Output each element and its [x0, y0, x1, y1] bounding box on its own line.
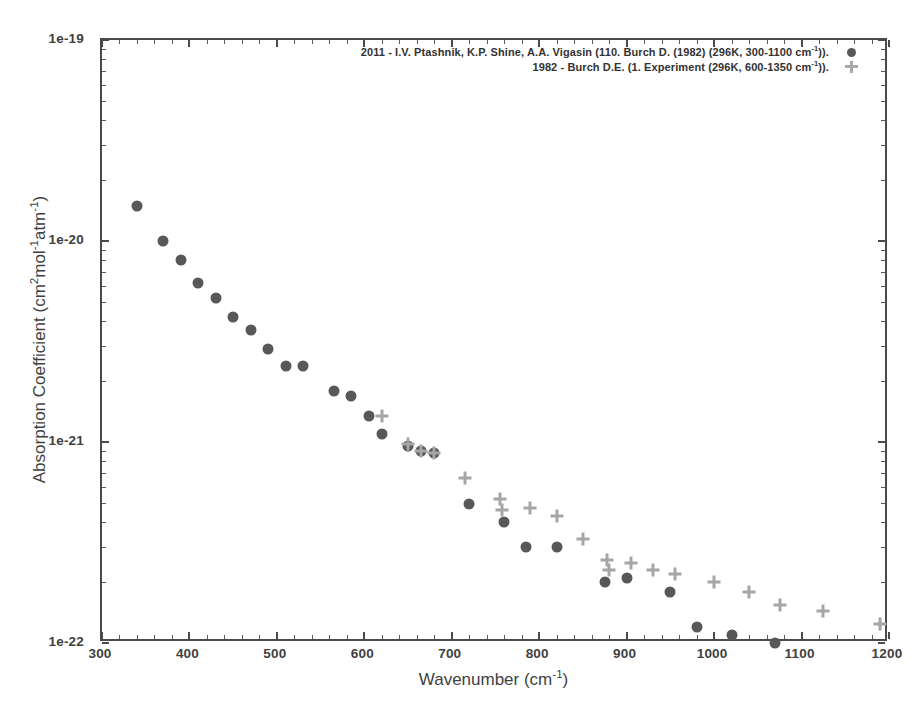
- y-axis-minor-tick: [881, 250, 885, 251]
- legend-label-0: 2011 - I.V. Ptashnik, K.P. Shine, A.A. V…: [361, 46, 812, 58]
- data-point-circle: [280, 360, 291, 371]
- data-point-circle: [691, 622, 702, 633]
- x-axis-minor-tick: [207, 635, 208, 639]
- x-axis-minor-tick: [767, 635, 768, 639]
- x-axis-tick-label: 700: [438, 646, 461, 661]
- data-point-plus: [773, 598, 786, 611]
- data-point-circle: [193, 277, 204, 288]
- x-axis-minor-tick: [749, 635, 750, 639]
- y-axis-minor-tick: [102, 582, 106, 583]
- x-axis-tick-label: 1100: [785, 646, 815, 661]
- data-point-circle: [263, 344, 274, 355]
- data-point-circle: [665, 586, 676, 597]
- y-axis-minor-tick: [102, 487, 106, 488]
- x-axis-tick-label: 400: [176, 646, 199, 661]
- y-axis-tick: [878, 240, 885, 242]
- x-axis-minor-tick: [487, 635, 488, 639]
- x-axis-minor-tick: [469, 635, 470, 639]
- legend-entry-1: 1982 - Burch D.E. (1. Experiment (296K, …: [205, 59, 865, 74]
- data-point-plus: [495, 503, 508, 516]
- data-point-circle: [376, 428, 387, 439]
- x-axis-tick: [188, 40, 190, 47]
- data-point-plus: [402, 437, 415, 450]
- x-axis-minor-tick: [224, 635, 225, 639]
- data-point-plus: [375, 409, 388, 422]
- y-axis-minor-tick: [102, 260, 106, 261]
- data-point-plus: [874, 617, 887, 630]
- data-point-plus: [668, 568, 681, 581]
- x-axis-minor-tick: [172, 635, 173, 639]
- y-axis-minor-tick: [102, 321, 106, 322]
- y-axis-minor-tick: [102, 451, 106, 452]
- x-axis-minor-tick: [312, 635, 313, 639]
- data-point-circle: [228, 311, 239, 322]
- y-axis-tick: [102, 441, 109, 443]
- x-axis-minor-tick: [154, 635, 155, 639]
- x-axis-tick-label: 600: [351, 646, 374, 661]
- y-axis-tick-labels: 1e-191e-201e-211e-22: [0, 0, 92, 711]
- data-point-circle: [521, 542, 532, 553]
- x-axis-tick-label: 900: [613, 646, 636, 661]
- x-axis-tick: [101, 632, 103, 639]
- y-axis-minor-tick: [102, 547, 106, 548]
- x-axis-minor-tick: [399, 635, 400, 639]
- x-axis-minor-tick: [557, 635, 558, 639]
- y-axis-minor-tick: [102, 272, 106, 273]
- x-axis-minor-tick: [522, 635, 523, 639]
- x-axis-tick-label: 300: [88, 646, 111, 661]
- y-axis-minor-tick: [102, 180, 106, 181]
- data-point-circle: [131, 200, 142, 211]
- y-axis-minor-tick: [881, 71, 885, 72]
- x-axis-tick-label: 800: [526, 646, 549, 661]
- data-point-plus: [458, 472, 471, 485]
- data-point-circle: [551, 542, 562, 553]
- y-axis-tick-label: 1e-19: [48, 31, 84, 46]
- y-axis-minor-tick: [881, 49, 885, 50]
- y-axis-tick: [102, 240, 109, 242]
- y-axis-minor-tick: [102, 49, 106, 50]
- x-axis-minor-tick: [504, 635, 505, 639]
- data-point-circle: [346, 390, 357, 401]
- x-axis-tick: [363, 632, 365, 639]
- data-point-circle: [175, 255, 186, 266]
- legend-label-1: 1982 - Burch D.E. (1. Experiment (296K, …: [532, 61, 811, 73]
- chart-legend: 2011 - I.V. Ptashnik, K.P. Shine, A.A. V…: [205, 44, 865, 74]
- x-axis-tick: [451, 632, 453, 639]
- y-axis-minor-tick: [102, 461, 106, 462]
- y-axis-minor-tick: [102, 59, 106, 60]
- x-axis-minor-tick: [259, 635, 260, 639]
- legend-tail-1: )).: [818, 61, 829, 73]
- y-axis-minor-tick: [881, 302, 885, 303]
- y-axis-minor-tick: [102, 250, 106, 251]
- y-axis-minor-tick: [881, 503, 885, 504]
- y-axis-minor-tick: [102, 85, 106, 86]
- x-axis-tick: [801, 632, 803, 639]
- data-point-plus: [743, 585, 756, 598]
- y-axis-minor-tick: [881, 473, 885, 474]
- x-axis-minor-tick: [784, 635, 785, 639]
- x-axis-minor-tick: [294, 635, 295, 639]
- x-axis-minor-tick: [819, 635, 820, 639]
- y-axis-tick: [102, 39, 109, 41]
- y-axis-minor-tick: [881, 461, 885, 462]
- y-axis-tick: [878, 642, 885, 644]
- x-axis-tick: [713, 632, 715, 639]
- y-axis-minor-tick: [102, 473, 106, 474]
- x-axis-minor-tick: [609, 635, 610, 639]
- y-axis-minor-tick: [881, 101, 885, 102]
- x-axis-minor-tick: [329, 635, 330, 639]
- x-axis-label-main: Wavenumber (cm: [419, 670, 553, 689]
- y-axis-tick: [878, 39, 885, 41]
- x-axis-minor-tick: [137, 40, 138, 44]
- y-axis-minor-tick: [102, 503, 106, 504]
- data-point-circle: [363, 410, 374, 421]
- x-axis-minor-tick: [662, 635, 663, 639]
- y-axis-minor-tick: [881, 180, 885, 181]
- y-axis-tick-label: 1e-22: [48, 634, 84, 649]
- x-axis-minor-tick: [872, 40, 873, 44]
- y-axis-minor-tick: [102, 71, 106, 72]
- data-point-plus: [428, 447, 441, 460]
- y-axis-minor-tick: [881, 85, 885, 86]
- x-axis-tick: [888, 40, 890, 47]
- data-point-plus: [646, 564, 659, 577]
